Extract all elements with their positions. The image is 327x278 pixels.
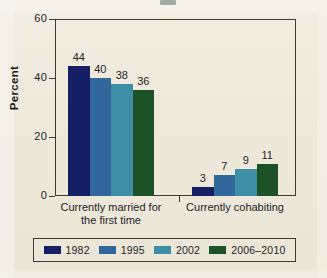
paper-edge-left [0, 0, 14, 278]
bar [133, 90, 155, 196]
y-axis-title: Percent [8, 66, 20, 110]
legend-swatch [99, 246, 116, 254]
bar [90, 78, 112, 196]
chart-legend: 1982199520022006–2010 [33, 238, 296, 262]
bar-value-label: 3 [192, 172, 214, 184]
legend-swatch [44, 246, 61, 254]
legend-swatch [209, 246, 226, 254]
paper-edge-bottom [0, 270, 327, 278]
bar-value-label: 36 [133, 75, 155, 87]
x-group-label-line: the first time [49, 214, 173, 227]
bar-value-label: 9 [235, 154, 257, 166]
legend-label: 2002 [176, 244, 200, 256]
x-group-label: Currently married forthe first time [49, 201, 173, 227]
bar-value-label: 7 [214, 160, 236, 172]
cropped-title-fragment [160, 0, 176, 5]
bar [214, 175, 236, 196]
bar-value-label: 40 [90, 63, 112, 75]
bar-value-label: 11 [257, 149, 279, 161]
legend-swatch [154, 246, 171, 254]
legend-label: 2006–2010 [231, 244, 285, 256]
legend-item[interactable]: 1995 [99, 244, 145, 256]
legend-item[interactable]: 2002 [154, 244, 200, 256]
x-group-label: Currently cohabiting [173, 201, 297, 214]
y-tick-label-20: 20 [21, 130, 47, 142]
bar [68, 66, 90, 196]
bar-value-label: 44 [68, 51, 90, 63]
legend-item[interactable]: 1982 [44, 244, 90, 256]
x-group-label-line: Currently cohabiting [173, 201, 297, 214]
paper-edge-right [317, 0, 327, 278]
x-group-label-line: Currently married for [49, 201, 173, 214]
bar [257, 164, 279, 196]
bar [192, 187, 214, 196]
y-tick-60 [49, 19, 55, 20]
legend-label: 1995 [121, 244, 145, 256]
bar [235, 169, 257, 196]
y-tick-label-0: 0 [21, 189, 47, 201]
legend-label: 1982 [66, 244, 90, 256]
legend-item[interactable]: 2006–2010 [209, 244, 285, 256]
bar [111, 84, 133, 196]
y-tick-0 [49, 196, 55, 197]
y-tick-label-60: 60 [21, 12, 47, 24]
plot-area: 0204060 4440383637911 [55, 19, 296, 196]
y-tick-20 [49, 137, 55, 138]
y-tick-label-40: 40 [21, 71, 47, 83]
bar-value-label: 38 [111, 69, 133, 81]
y-tick-40 [49, 78, 55, 79]
